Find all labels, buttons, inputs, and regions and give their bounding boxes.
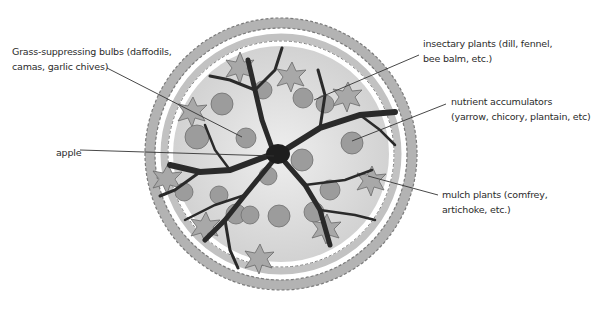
label-line: Grass-suppressing bulbs (daffodils, [12,44,172,59]
label-line: artichoke, etc.) [442,202,548,217]
label-line: (yarrow, chicory, plantain, etc) [451,109,591,124]
label-line: insectary plants (dill, fennel, [423,36,552,51]
apple-trunk [266,144,290,164]
label-grass-suppressing-bulbs: Grass-suppressing bulbs (daffodils, cama… [12,44,172,74]
label-mulch-plants: mulch plants (comfrey, artichoke, etc.) [442,187,548,217]
label-nutrient-accumulators: nutrient accumulators (yarrow, chicory, … [451,94,591,124]
label-line: camas, garlic chives) [12,59,172,74]
label-line: nutrient accumulators [451,94,591,109]
label-apple: apple [56,145,81,160]
label-line: mulch plants (comfrey, [442,187,548,202]
label-line: apple [56,145,81,160]
label-line: bee balm, etc.) [423,51,552,66]
label-insectary-plants: insectary plants (dill, fennel, bee balm… [423,36,552,66]
